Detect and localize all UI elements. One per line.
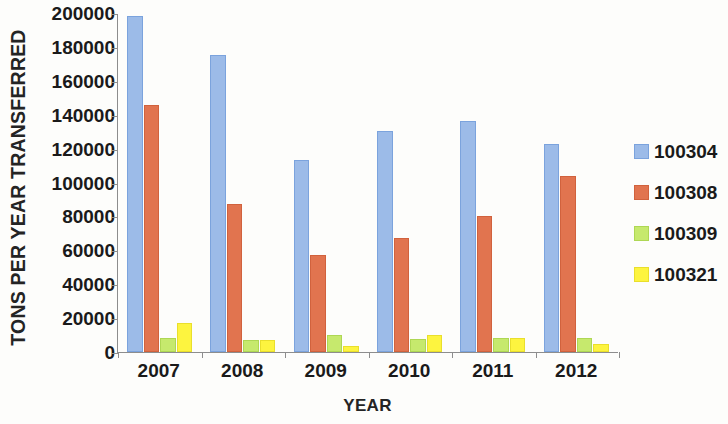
y-tick-label: 60000 <box>20 240 115 262</box>
bar-100309-2011 <box>493 338 509 352</box>
x-axis-title: YEAR <box>117 396 618 416</box>
bar-100304-2008 <box>210 55 226 352</box>
bar-100321-2007 <box>177 323 193 352</box>
bar-groups <box>118 14 618 352</box>
bar-100309-2009 <box>327 335 343 352</box>
y-axis-tick <box>112 14 118 15</box>
bar-chart: TONS PER YEAR TRANSFERRED 02000040000600… <box>0 0 728 424</box>
y-axis-tick <box>112 217 118 218</box>
bar-100321-2009 <box>343 346 359 352</box>
bar-100308-2008 <box>227 204 243 352</box>
x-axis-tick <box>452 352 453 358</box>
bar-100321-2008 <box>260 340 276 352</box>
y-tick-label: 180000 <box>20 37 115 59</box>
y-tick-label: 100000 <box>20 173 115 195</box>
bar-100309-2008 <box>243 340 259 352</box>
x-axis-tick <box>619 352 620 358</box>
bar-100309-2010 <box>410 339 426 352</box>
y-axis-tick <box>112 150 118 151</box>
x-tick-label: 2008 <box>201 360 285 382</box>
x-axis-tick <box>536 352 537 358</box>
x-axis-tick <box>285 352 286 358</box>
bar-group <box>201 14 284 352</box>
x-tick-label: 2011 <box>451 360 535 382</box>
plot-area <box>117 14 618 353</box>
x-tick-label: 2012 <box>535 360 619 382</box>
bar-100309-2012 <box>577 338 593 352</box>
y-axis-tick <box>112 48 118 49</box>
y-axis-tick-labels: 0200004000060000800001000001200001400001… <box>20 0 115 368</box>
legend-swatch-icon <box>634 267 649 282</box>
y-tick-label: 120000 <box>20 139 115 161</box>
y-axis-tick <box>112 116 118 117</box>
legend-item-100304[interactable]: 100304 <box>634 131 728 172</box>
x-axis-tick <box>369 352 370 358</box>
bar-group <box>535 14 618 352</box>
x-tick-label: 2010 <box>368 360 452 382</box>
bar-group <box>451 14 534 352</box>
y-axis-tick <box>112 184 118 185</box>
bar-100304-2010 <box>377 131 393 352</box>
bar-100304-2011 <box>460 121 476 352</box>
legend-label: 100304 <box>654 141 717 163</box>
bar-100309-2007 <box>160 338 176 352</box>
bar-100304-2007 <box>127 16 143 352</box>
y-axis-tick <box>112 82 118 83</box>
bar-100321-2012 <box>593 344 609 352</box>
x-tick-label: 2007 <box>117 360 201 382</box>
bar-100321-2010 <box>427 335 443 352</box>
bar-100308-2012 <box>560 176 576 352</box>
bar-group <box>285 14 368 352</box>
bar-100308-2010 <box>394 238 410 352</box>
bar-100304-2012 <box>544 144 560 352</box>
bar-100308-2007 <box>144 105 160 352</box>
legend-label: 100321 <box>654 264 717 286</box>
y-tick-label: 140000 <box>20 105 115 127</box>
bar-group <box>368 14 451 352</box>
x-tick-label: 2009 <box>284 360 368 382</box>
x-axis-tick <box>202 352 203 358</box>
y-tick-label: 0 <box>20 342 115 364</box>
y-tick-label: 40000 <box>20 274 115 296</box>
y-tick-label: 80000 <box>20 206 115 228</box>
bar-group <box>118 14 201 352</box>
x-axis-tick-labels: 200720082009201020112012 <box>117 360 618 382</box>
legend-swatch-icon <box>634 226 649 241</box>
chart-legend: 100304100308100309100321 <box>634 131 728 295</box>
legend-swatch-icon <box>634 144 649 159</box>
legend-label: 100309 <box>654 223 717 245</box>
y-tick-label: 160000 <box>20 71 115 93</box>
bar-100308-2011 <box>477 216 493 352</box>
y-axis-tick <box>112 251 118 252</box>
legend-label: 100308 <box>654 182 717 204</box>
bar-100308-2009 <box>310 255 326 352</box>
bar-100321-2011 <box>510 338 526 352</box>
legend-item-100309[interactable]: 100309 <box>634 213 728 254</box>
legend-item-100321[interactable]: 100321 <box>634 254 728 295</box>
legend-item-100308[interactable]: 100308 <box>634 172 728 213</box>
bar-100304-2009 <box>294 160 310 352</box>
y-axis-tick <box>112 285 118 286</box>
legend-swatch-icon <box>634 185 649 200</box>
y-tick-label: 200000 <box>20 3 115 25</box>
x-axis-tick <box>118 352 119 358</box>
y-axis-tick <box>112 319 118 320</box>
y-tick-label: 20000 <box>20 308 115 330</box>
